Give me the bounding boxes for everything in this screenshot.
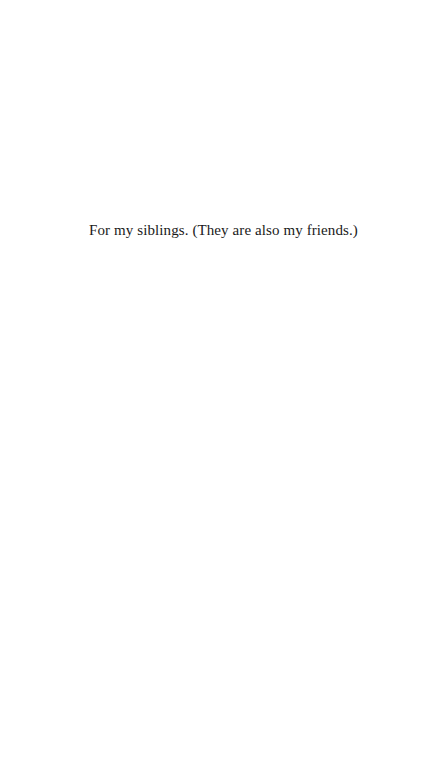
- dedication-text: For my siblings. (They are also my frien…: [89, 221, 358, 239]
- book-page: For my siblings. (They are also my frien…: [0, 0, 438, 767]
